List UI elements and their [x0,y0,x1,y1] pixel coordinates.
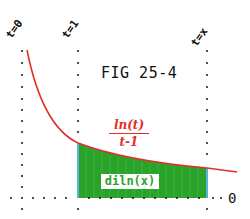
integral-area [78,143,207,198]
curve-formula: ln(t) t-1 [107,118,151,149]
baseline-zero-label: 0 [228,190,236,206]
formula-numerator: ln(t) [107,118,151,132]
figure-25-4: t=0 t=1 t=x FIG 25-4 ln(t) t-1 diln(x) 0 [0,0,250,219]
formula-denominator: t-1 [107,135,151,149]
dotted-line-t0 [21,50,23,210]
figure-title: FIG 25-4 [101,64,177,82]
fraction-bar [109,133,149,134]
area-label: diln(x) [101,174,159,189]
